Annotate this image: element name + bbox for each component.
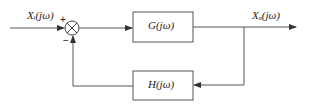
minus-sign: − <box>63 35 69 46</box>
summing-junction <box>65 21 79 35</box>
output-label: Xₒ(jω) <box>252 9 280 21</box>
feedback-path-left <box>73 36 133 86</box>
plus-sign: + <box>60 14 66 25</box>
forward-block-label: G(jω) <box>148 19 174 31</box>
feedback-path-right <box>194 27 244 85</box>
input-label: Xᵢ(jω) <box>27 9 54 21</box>
feedback-block-label: H(jω) <box>148 78 174 90</box>
